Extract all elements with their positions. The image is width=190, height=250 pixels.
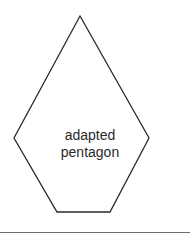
shape-label: adapted pentagon: [40, 127, 140, 161]
divider-line: [0, 232, 190, 233]
adapted-pentagon-shape: [0, 0, 190, 250]
shape-label-line-2: pentagon: [40, 144, 140, 161]
shape-label-line-1: adapted: [40, 127, 140, 144]
